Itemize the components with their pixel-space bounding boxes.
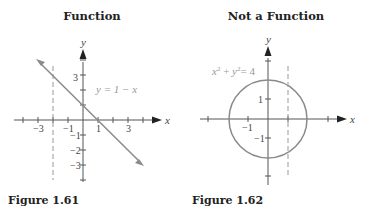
line-arrow-start-icon	[36, 59, 45, 66]
y-tick-label: 1	[258, 94, 263, 105]
function-graph: y x y = 1 − x −3 −1 1 3 3 −1 −2 −3	[0, 0, 184, 218]
y-tick-label: −3	[70, 160, 81, 171]
x-tick-label: −3	[33, 123, 44, 134]
figure-1-61-panel: Function	[0, 0, 184, 218]
not-a-function-graph: y x x2 + y2= 4 −1 1 −1	[184, 0, 369, 218]
y-tick-label: −1	[70, 130, 81, 141]
y-axis-arrow-icon	[265, 46, 272, 56]
y-tick-label: −2	[70, 145, 81, 156]
y-tick-label: −1	[254, 133, 265, 144]
x-axis-label: x	[349, 113, 355, 125]
figure-1-62-panel: Not a Function y x x2 + y2= 4	[184, 0, 368, 218]
x-axis-label: x	[164, 114, 170, 126]
y-axis-arrow-icon	[80, 49, 87, 59]
x-axis-arrow-icon	[152, 117, 162, 124]
x-tick-label: 3	[126, 123, 131, 134]
y-axis-label: y	[80, 36, 86, 48]
y-axis-label: y	[265, 33, 271, 45]
figure-caption: Figure 1.61	[8, 194, 79, 207]
equation-label: x2 + y2= 4	[211, 65, 255, 77]
line-y-equals-1-minus-x	[40, 63, 140, 162]
x-axis-arrow-icon	[337, 116, 347, 123]
y-tick-label: 3	[73, 72, 78, 83]
line-arrow-end-icon	[135, 159, 144, 166]
x-tick-label: 1	[96, 123, 101, 134]
x-tick-label: −1	[242, 122, 253, 133]
equation-label: y = 1 − x	[95, 83, 137, 95]
figure-caption: Figure 1.62	[192, 194, 263, 207]
